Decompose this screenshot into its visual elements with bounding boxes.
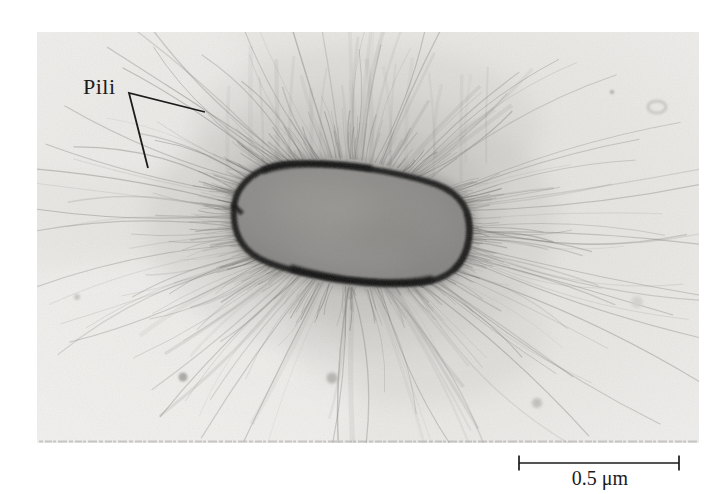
micrograph-photo [37, 32, 699, 443]
micrograph-image [37, 32, 699, 443]
scale-bar-label: 0.5 μm [554, 466, 646, 490]
figure-page: Pili 0.5 μm [0, 0, 716, 494]
pili-label: Pili [83, 76, 116, 98]
